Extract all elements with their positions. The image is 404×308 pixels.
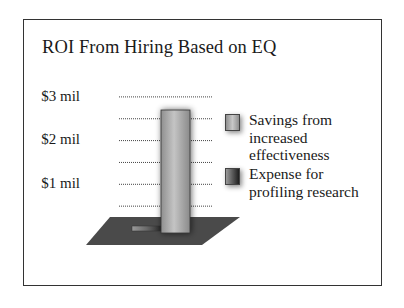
legend-item-expense: Expense for profiling research [225, 165, 359, 200]
legend-swatch-expense [225, 168, 240, 185]
legend-swatch-savings [225, 114, 240, 131]
bar-savings [161, 110, 190, 233]
bar-expense [132, 226, 161, 231]
legend-item-savings: Savings from increased effectiveness [225, 111, 359, 164]
legend-label-expense: Expense for profiling research [249, 165, 359, 200]
legend-label-savings: Savings from increased effectiveness [249, 111, 359, 164]
